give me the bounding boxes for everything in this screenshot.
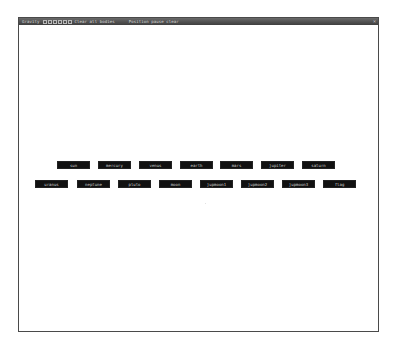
canvas-point (205, 203, 206, 204)
body-button-jupmoon1[interactable]: jupmoon1 (200, 180, 233, 188)
body-button-uranus[interactable]: uranus (35, 180, 68, 188)
body-button-mercury[interactable]: mercury (98, 161, 131, 169)
toolbar-box-1[interactable] (43, 20, 47, 24)
body-button-jupmoon2[interactable]: jupmoon2 (241, 180, 274, 188)
body-button-venus[interactable]: venus (139, 161, 172, 169)
body-button-moon[interactable]: moon (159, 180, 192, 188)
body-button-jupmoon3[interactable]: jupmoon3 (282, 180, 315, 188)
app-window: Gravity Clear all bodies Position pause … (18, 17, 379, 332)
body-button-mars[interactable]: mars (220, 161, 253, 169)
body-button-sun[interactable]: sun (57, 161, 90, 169)
title-text: Gravity (22, 19, 40, 24)
title-toolbar-boxes (43, 20, 72, 24)
toolbar-box-6[interactable] (68, 20, 72, 24)
position-label[interactable]: Position pause clear (129, 19, 179, 24)
flag-button[interactable]: flag (323, 180, 356, 188)
toolbar-box-5[interactable] (63, 20, 67, 24)
close-icon[interactable]: × (373, 18, 376, 25)
body-button-saturn[interactable]: saturn (302, 161, 335, 169)
body-button-neptune[interactable]: neptune (77, 180, 110, 188)
clear-all-label[interactable]: Clear all bodies (75, 19, 115, 24)
body-button-earth[interactable]: earth (180, 161, 213, 169)
title-bar[interactable]: Gravity Clear all bodies Position pause … (19, 18, 378, 25)
body-button-pluto[interactable]: pluto (118, 180, 151, 188)
toolbar-box-4[interactable] (58, 20, 62, 24)
toolbar-box-3[interactable] (53, 20, 57, 24)
body-button-jupiter[interactable]: jupiter (261, 161, 294, 169)
toolbar-box-2[interactable] (48, 20, 52, 24)
